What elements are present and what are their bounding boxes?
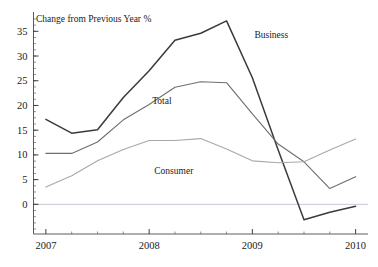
x-axis-tick-label: 2008 — [139, 240, 160, 251]
series-label-total: Total — [152, 96, 172, 106]
y-axis-tick-label: 10 — [17, 149, 28, 160]
line-chart: 05101520253035 2007200820092010 Business… — [0, 0, 378, 267]
chart-axis-title: Change from Previous Year % — [36, 14, 151, 24]
y-axis-tick-label: 5 — [22, 174, 27, 185]
y-axis-tick-label: 20 — [17, 100, 28, 111]
series-label-business: Business — [254, 30, 288, 40]
x-axis-tick-label: 2007 — [35, 240, 56, 251]
x-axis-tick-label: 2009 — [242, 240, 263, 251]
y-axis-tick-label: 15 — [17, 125, 28, 136]
y-axis-tick-label: 30 — [17, 51, 28, 62]
series-label-consumer: Consumer — [154, 166, 194, 176]
y-axis-tick-label: 35 — [17, 26, 28, 37]
chart-container: 05101520253035 2007200820092010 Business… — [0, 0, 378, 267]
y-axis-tick-label: 25 — [17, 75, 28, 86]
y-axis-tick-label: 0 — [22, 199, 27, 210]
plot-background — [0, 0, 378, 267]
x-axis-tick-label: 2010 — [345, 240, 366, 251]
